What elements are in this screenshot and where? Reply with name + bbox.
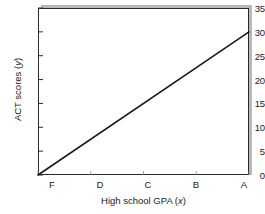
xtick-label-f: F (42, 180, 62, 190)
ytick-label-35: 35 (231, 4, 265, 14)
ytick-label-30: 30 (231, 28, 265, 38)
x-axis-title-tail: ) (183, 195, 186, 206)
plot-area (38, 8, 249, 175)
y-axis-title-tail: ) (12, 58, 23, 61)
y-axis-title-variable: y (12, 61, 23, 66)
ytick-label-25: 25 (231, 52, 265, 62)
x-axis-title: High school GPA (x) (38, 195, 249, 206)
ytick-label-15: 15 (231, 99, 265, 109)
y-axis-title: ACT scores (y) (12, 25, 23, 155)
y-axis-title-text: ACT scores ( (12, 66, 23, 121)
xtick-label-d: D (90, 180, 110, 190)
ytick-label-20: 20 (231, 76, 265, 86)
xtick-label-c: C (138, 180, 158, 190)
ytick-label-5: 5 (231, 147, 265, 157)
chart-figure: 0 5 10 15 20 25 30 35 F D C B A High sch… (0, 0, 265, 214)
xtick-label-b: B (186, 180, 206, 190)
ytick-label-10: 10 (231, 123, 265, 133)
xtick-label-a: A (234, 180, 254, 190)
x-axis-title-text: High school GPA ( (101, 195, 178, 206)
